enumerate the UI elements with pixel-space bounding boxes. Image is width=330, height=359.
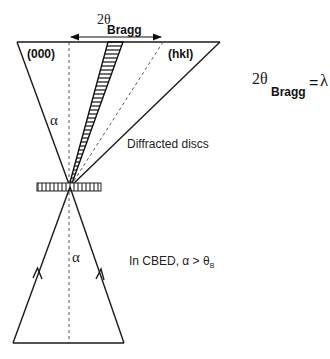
equation-lambda: λ bbox=[320, 71, 329, 90]
equation-lhs-sub: Bragg bbox=[271, 85, 306, 99]
alpha-upper-label: α bbox=[50, 112, 58, 128]
spot-000-label: (000) bbox=[27, 47, 55, 61]
incident-right-edge bbox=[70, 187, 124, 343]
equation-lhs: 2θ bbox=[252, 70, 268, 87]
alpha-lower-label: α bbox=[72, 249, 80, 265]
spot-hkl-label: (hkl) bbox=[168, 47, 193, 61]
hkl-center-ray bbox=[70, 42, 163, 187]
incident-left-edge bbox=[13, 187, 70, 343]
equation-equals: = bbox=[309, 74, 318, 91]
cone-left-edge bbox=[17, 42, 70, 187]
hatched-bragg-band bbox=[69, 42, 123, 186]
cbed-diagram: 2θ Bragg (000) (hkl) α Diffracted discs … bbox=[0, 0, 330, 359]
cbed-condition-label: In CBED, α > θB bbox=[129, 254, 215, 269]
bragg-equation: 2θ Bragg = λ bbox=[252, 70, 329, 99]
diffracted-discs-label: Diffracted discs bbox=[127, 137, 209, 151]
diffracted-cone bbox=[17, 42, 220, 187]
bragg-label: Bragg bbox=[107, 23, 142, 37]
